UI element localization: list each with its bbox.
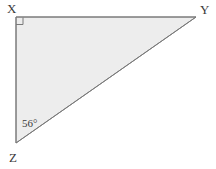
triangle-diagram-svg: X Y Z 56° (0, 0, 216, 169)
geometry-figure: X Y Z 56° (0, 0, 216, 169)
angle-label-z: 56° (22, 117, 37, 129)
vertex-label-y: Y (200, 2, 210, 17)
vertex-label-z: Z (9, 150, 17, 165)
vertex-label-x: X (7, 1, 17, 16)
